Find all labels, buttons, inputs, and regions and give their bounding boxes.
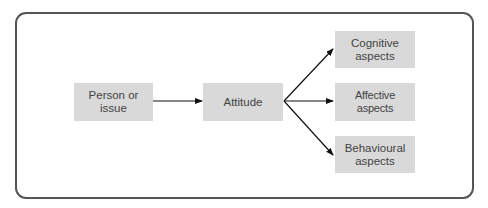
node-behavioural-aspects: Behavioural aspects <box>335 136 415 173</box>
arrow-attitude-to-cognitive <box>284 49 333 101</box>
node-attitude: Attitude <box>203 83 283 121</box>
node-affective-aspects: Affective aspects <box>335 83 415 121</box>
arrow-attitude-to-behavioural <box>284 101 333 155</box>
node-person-or-issue: Person or issue <box>74 83 153 121</box>
node-cognitive-aspects: Cognitive aspects <box>335 31 415 68</box>
